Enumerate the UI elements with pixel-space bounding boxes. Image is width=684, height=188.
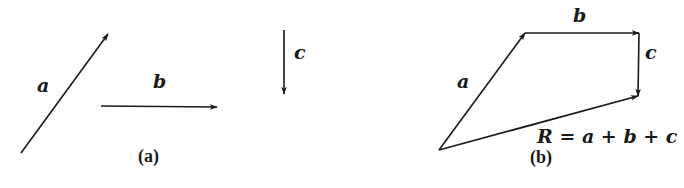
label-vector-a: a [37, 76, 49, 95]
caption-b: (b) [530, 148, 552, 166]
label-vector-a: a [457, 72, 469, 91]
vector-a-arrow [439, 33, 525, 150]
caption-a: (a) [138, 147, 159, 165]
vector-c-arrow [638, 33, 639, 96]
vector-addition-diagram [0, 0, 684, 188]
vector-b-arrow [101, 106, 217, 107]
label-vector-c: c [294, 43, 306, 62]
vector-a-arrow [21, 34, 108, 153]
label-vector-b: b [573, 6, 586, 25]
label-vector-c: c [645, 43, 657, 62]
resultant-equation: R = a + b + c [537, 127, 677, 146]
label-vector-b: b [153, 72, 166, 91]
